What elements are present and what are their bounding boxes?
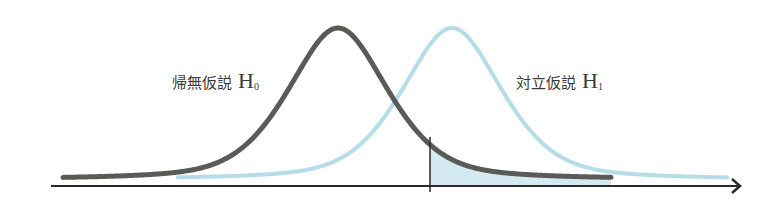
- null-hypothesis-text: 帰無仮説: [172, 74, 232, 92]
- alternative-hypothesis-text: 対立仮説: [516, 74, 576, 92]
- alternative-hypothesis-subscript: 1: [598, 81, 603, 92]
- null-hypothesis-symbol: H: [238, 68, 254, 93]
- alternative-hypothesis-curve: [178, 28, 727, 177]
- hypothesis-test-diagram: [0, 0, 784, 209]
- null-hypothesis-subscript: 0: [254, 81, 259, 92]
- null-hypothesis-label: 帰無仮説H0: [172, 70, 259, 92]
- alternative-hypothesis-label: 対立仮説H1: [516, 70, 603, 92]
- alternative-hypothesis-symbol: H: [582, 68, 598, 93]
- null-hypothesis-curve: [63, 28, 611, 177]
